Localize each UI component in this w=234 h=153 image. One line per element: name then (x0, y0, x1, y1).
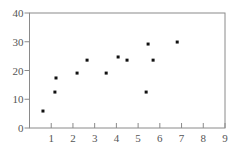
x-tick-label: 4 (114, 132, 120, 144)
data-point (86, 59, 89, 62)
data-point (126, 59, 129, 62)
data-points (41, 41, 178, 113)
y-axis: 010203040 (13, 7, 30, 134)
x-tick-label: 2 (70, 132, 76, 144)
x-tick-label: 7 (179, 132, 185, 144)
data-point (105, 72, 108, 75)
data-point (117, 55, 120, 58)
plot-frame (30, 13, 226, 128)
y-tick-label: 10 (13, 93, 25, 105)
x-tick-label: 9 (222, 132, 228, 144)
data-point (176, 41, 179, 44)
scatter-chart: 010203040 123456789 (0, 0, 234, 153)
y-tick-label: 20 (13, 65, 25, 77)
x-tick-label: 5 (135, 132, 141, 144)
data-point (145, 91, 148, 94)
x-axis: 123456789 (30, 123, 229, 144)
data-point (53, 91, 56, 94)
data-point (147, 43, 150, 46)
data-point (41, 110, 44, 113)
data-point (76, 72, 79, 75)
x-tick-label: 1 (48, 132, 54, 144)
x-tick-label: 6 (157, 132, 163, 144)
x-tick-label: 8 (201, 132, 207, 144)
data-point (152, 59, 155, 62)
data-point (55, 76, 58, 79)
y-tick-label: 40 (13, 7, 25, 19)
y-tick-label: 0 (18, 122, 24, 134)
x-tick-label: 3 (92, 132, 98, 144)
y-tick-label: 30 (13, 36, 25, 48)
